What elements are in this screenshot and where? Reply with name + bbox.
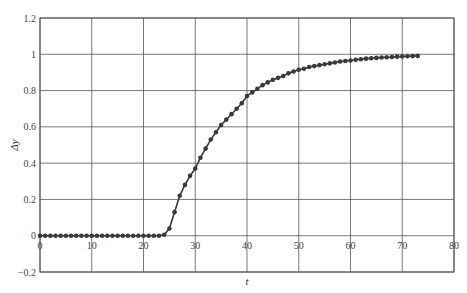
data-point (126, 233, 131, 238)
data-point (338, 59, 343, 64)
data-point (193, 166, 198, 171)
x-tick-label: 50 (294, 240, 304, 251)
y-axis-ticks: −0.200.20.40.60.811.2 (18, 13, 36, 278)
data-point (271, 77, 276, 82)
data-point (245, 94, 250, 99)
data-point (115, 233, 120, 238)
data-point (415, 54, 420, 59)
data-point (260, 83, 265, 88)
x-tick-label: 20 (139, 240, 149, 251)
x-tick-label: 70 (397, 240, 407, 251)
data-point (136, 233, 141, 238)
y-tick-label: 0.2 (24, 194, 37, 205)
data-point (369, 56, 374, 61)
data-point (58, 233, 63, 238)
data-point (240, 101, 245, 106)
y-tick-label: 1.2 (24, 13, 37, 24)
data-point (328, 61, 333, 66)
data-point (359, 57, 364, 62)
data-point (395, 54, 400, 59)
data-point (364, 56, 369, 61)
data-point (343, 59, 348, 64)
data-point (234, 106, 239, 111)
y-tick-label: 0.8 (24, 85, 37, 96)
data-point (390, 55, 395, 60)
data-point (312, 64, 317, 69)
x-tick-label: 30 (190, 240, 200, 251)
data-point (198, 155, 203, 160)
data-markers (38, 54, 420, 238)
data-point (157, 233, 162, 238)
y-tick-label: 0.4 (24, 158, 37, 169)
data-point (353, 57, 358, 62)
data-point (95, 233, 100, 238)
y-tick-label: 0 (31, 230, 36, 241)
chart: 01020304050607080 −0.200.20.40.60.811.2 … (0, 0, 467, 293)
data-point (296, 67, 301, 72)
data-point (100, 233, 105, 238)
data-point (400, 54, 405, 59)
data-point (53, 233, 58, 238)
data-point (255, 86, 260, 91)
data-point (229, 112, 234, 117)
data-point (286, 71, 291, 76)
data-point (384, 55, 389, 60)
data-point (110, 233, 115, 238)
x-tick-label: 0 (38, 240, 43, 251)
data-point (48, 233, 53, 238)
data-point (348, 58, 353, 63)
data-point (224, 117, 229, 122)
x-tick-label: 10 (87, 240, 97, 251)
data-point (131, 233, 136, 238)
x-tick-label: 60 (346, 240, 356, 251)
data-point (317, 63, 322, 68)
data-point (322, 62, 327, 67)
data-point (141, 233, 146, 238)
data-point (146, 233, 151, 238)
x-axis-label: t (245, 275, 249, 287)
data-point (69, 233, 74, 238)
data-point (172, 210, 177, 215)
data-point (250, 90, 255, 95)
data-point (38, 233, 43, 238)
data-point (405, 54, 410, 59)
data-point (121, 233, 126, 238)
data-point (167, 226, 172, 231)
x-axis-ticks: 01020304050607080 (38, 240, 460, 251)
y-tick-label: −0.2 (18, 267, 36, 278)
data-point (203, 146, 208, 151)
data-point (214, 130, 219, 135)
y-tick-label: 0.6 (24, 121, 37, 132)
data-point (152, 233, 157, 238)
data-point (374, 56, 379, 61)
data-point (89, 233, 94, 238)
data-point (188, 174, 193, 179)
data-point (84, 233, 89, 238)
y-axis-label: Δy (8, 139, 20, 151)
x-tick-label: 40 (242, 240, 252, 251)
data-point (410, 54, 415, 59)
y-tick-label: 1 (31, 49, 36, 60)
data-point (333, 60, 338, 65)
data-point (265, 80, 270, 85)
data-point (105, 233, 110, 238)
data-point (79, 233, 84, 238)
data-point (291, 69, 296, 74)
data-point (302, 67, 307, 72)
data-point (307, 65, 312, 70)
data-point (74, 233, 79, 238)
data-point (379, 55, 384, 60)
data-point (219, 123, 224, 128)
data-point (183, 183, 188, 188)
data-point (43, 233, 48, 238)
data-line (40, 56, 418, 236)
x-tick-label: 80 (449, 240, 459, 251)
data-point (208, 137, 213, 142)
data-point (177, 194, 182, 199)
data-point (162, 233, 167, 238)
data-point (276, 76, 281, 81)
data-point (281, 74, 286, 79)
data-point (64, 233, 69, 238)
